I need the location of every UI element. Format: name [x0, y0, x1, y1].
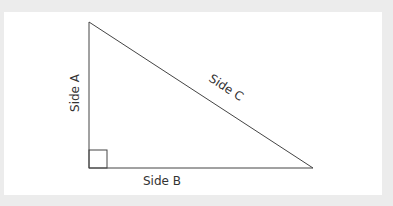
- side-a-label: Side A: [68, 73, 82, 112]
- right-triangle-diagram: Side A Side B Side C: [0, 0, 393, 206]
- triangle: [89, 22, 313, 168]
- side-c-label: Side C: [206, 71, 246, 104]
- side-c-line: [89, 22, 313, 168]
- side-b-label: Side B: [143, 174, 181, 188]
- right-angle-marker: [89, 150, 107, 168]
